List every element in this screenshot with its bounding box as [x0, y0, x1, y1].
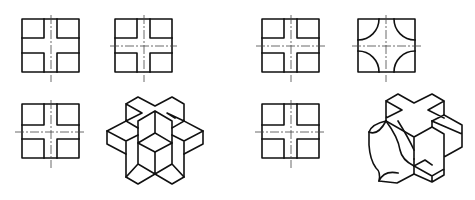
- left-top-view: [15, 100, 86, 168]
- right-top-view: [255, 100, 326, 168]
- right-front-view: [256, 15, 325, 82]
- right-isometric-view: [369, 94, 462, 183]
- left-isometric-view: [107, 97, 203, 184]
- left-side-view: [110, 15, 177, 82]
- technical-drawing: [0, 0, 475, 200]
- right-side-view: [352, 15, 421, 82]
- left-front-view: [22, 15, 79, 82]
